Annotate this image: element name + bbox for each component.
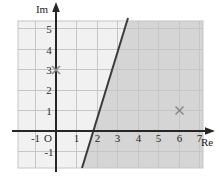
- x-tick-label-4: 4: [136, 132, 142, 144]
- x-tick-label-6: 6: [177, 132, 183, 144]
- imaginary-axis-arrowhead: [52, 2, 60, 12]
- y-tick-label-neg1: -1: [44, 146, 53, 158]
- y-tick-label-2: 2: [46, 84, 52, 96]
- y-tick-label-5: 5: [46, 23, 52, 35]
- x-tick-label-2: 2: [95, 132, 101, 144]
- x-tick-label-1: 1: [74, 132, 80, 144]
- x-tick-label-3: 3: [115, 132, 121, 144]
- y-tick-label-1: 1: [46, 105, 52, 117]
- plot-area: Im Re -1 1 2 3 4 5 6 7 O -1 1 2 3 4 5: [0, 0, 219, 176]
- x-tick-label-7: 7: [197, 132, 203, 144]
- origin-label: O: [44, 132, 52, 144]
- argand-diagram-svg: Im Re -1 1 2 3 4 5 6 7 O -1 1 2 3 4 5: [0, 0, 219, 176]
- x-tick-label-neg1: -1: [31, 132, 40, 144]
- y-tick-label-3: 3: [46, 64, 52, 76]
- y-tick-label-4: 4: [46, 44, 52, 56]
- real-axis-arrowhead: [205, 127, 215, 135]
- imaginary-axis-label: Im: [36, 3, 49, 15]
- real-axis-label: Re: [201, 136, 213, 148]
- x-tick-label-5: 5: [156, 132, 162, 144]
- argand-diagram-figure: Im Re -1 1 2 3 4 5 6 7 O -1 1 2 3 4 5: [0, 0, 219, 176]
